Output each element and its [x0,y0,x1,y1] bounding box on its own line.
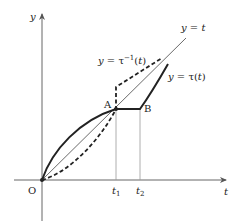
t-axis-label: t [224,186,229,197]
tau-curve [42,64,168,180]
y-axis-label: y [29,11,36,22]
identity-curve-label: y = t [180,22,206,33]
tau-inverse-curve-label: y = τ−1(t) [97,54,146,66]
tau-curve-label: y = τ(t) [167,71,206,82]
point-a [114,107,118,111]
point-a-label: A [103,99,112,110]
point-b-label: B [144,103,151,114]
origin-point [40,178,44,182]
t2-tick-label: t2 [136,185,145,198]
origin-label: O [28,185,36,196]
t1-tick-label: t1 [112,185,121,198]
graph-canvas: y t O A B t1 t2 y = t y = τ(t) y = τ−1(t… [0,0,238,222]
